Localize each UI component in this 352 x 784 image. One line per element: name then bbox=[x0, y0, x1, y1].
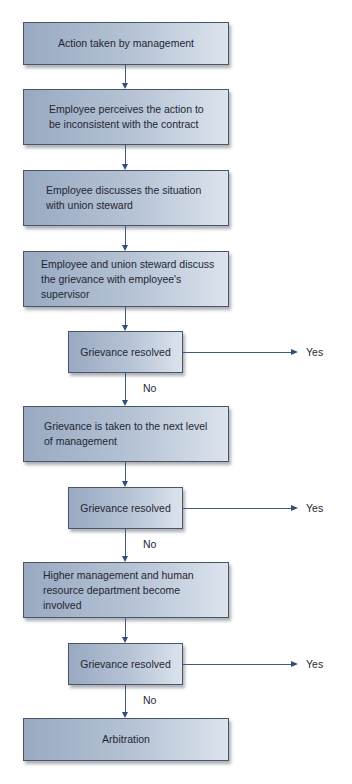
decision-label: Grievance resolved bbox=[80, 345, 170, 360]
connector-line bbox=[125, 226, 126, 245]
decision-label: Grievance resolved bbox=[80, 501, 170, 516]
step-employee-perceives: Employee perceives the action to be inco… bbox=[23, 89, 229, 145]
decision-label: Grievance resolved bbox=[80, 657, 170, 672]
yes-connector-line bbox=[183, 664, 292, 665]
no-connector-line bbox=[125, 685, 126, 712]
yes-connector-line bbox=[183, 352, 292, 353]
step-label: Employee and union steward discuss the g… bbox=[41, 257, 218, 302]
no-connector-line bbox=[125, 529, 126, 556]
no-label: No bbox=[143, 538, 156, 550]
connector-line bbox=[125, 65, 126, 83]
no-connector-line bbox=[125, 373, 126, 400]
decision-grievance-resolved-3: Grievance resolved bbox=[68, 643, 183, 685]
step-label: Employee perceives the action to be inco… bbox=[49, 102, 218, 132]
step-label: Grievance is taken to the next level of … bbox=[44, 419, 218, 449]
step-higher-management-hr: Higher management and human resource dep… bbox=[23, 562, 229, 618]
step-label: Higher management and human resource dep… bbox=[43, 568, 218, 613]
arrow-right-icon bbox=[291, 661, 298, 667]
step-label: Employee discusses the situation with un… bbox=[46, 183, 218, 213]
arrow-right-icon bbox=[291, 349, 298, 355]
step-arbitration: Arbitration bbox=[23, 718, 229, 761]
no-label: No bbox=[143, 694, 156, 706]
yes-connector-line bbox=[183, 508, 292, 509]
step-next-level-management: Grievance is taken to the next level of … bbox=[23, 406, 229, 462]
yes-label: Yes bbox=[306, 502, 323, 514]
no-label: No bbox=[143, 382, 156, 394]
step-discuss-union-steward: Employee discusses the situation with un… bbox=[23, 170, 229, 226]
connector-line bbox=[125, 618, 126, 637]
decision-grievance-resolved-1: Grievance resolved bbox=[68, 331, 183, 373]
step-discuss-supervisor: Employee and union steward discuss the g… bbox=[23, 251, 229, 307]
connector-line bbox=[125, 462, 126, 481]
arrow-right-icon bbox=[291, 505, 298, 511]
connector-line bbox=[125, 145, 126, 164]
yes-label: Yes bbox=[306, 346, 323, 358]
step-label: Arbitration bbox=[102, 732, 150, 747]
step-label: Action taken by management bbox=[58, 36, 194, 51]
connector-line bbox=[125, 307, 126, 325]
yes-label: Yes bbox=[306, 658, 323, 670]
decision-grievance-resolved-2: Grievance resolved bbox=[68, 487, 183, 529]
step-action-taken: Action taken by management bbox=[23, 22, 229, 65]
